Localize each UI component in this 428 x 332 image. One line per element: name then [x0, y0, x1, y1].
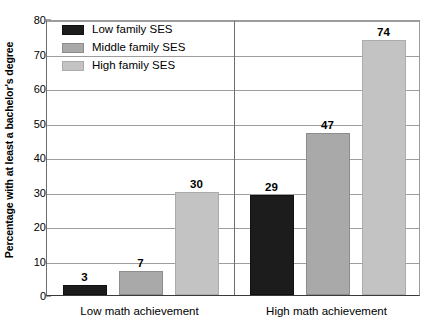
bar[interactable]	[119, 271, 163, 295]
legend-item-label: High family SES	[92, 60, 175, 72]
y-tick-label: 60	[18, 84, 46, 95]
legend-item-label: Middle family SES	[92, 42, 185, 54]
bar[interactable]	[306, 133, 350, 295]
legend-item[interactable]: Middle family SES	[62, 40, 222, 56]
legend-swatch-icon	[62, 43, 84, 53]
x-axis-category-label: High math achievement	[233, 306, 420, 318]
bar-value-label: 74	[362, 27, 406, 39]
bar-value-label: 7	[119, 258, 163, 270]
bar[interactable]	[250, 195, 294, 295]
y-tick-label: 80	[18, 15, 46, 26]
legend-swatch-icon	[62, 25, 84, 35]
bar-value-label: 3	[63, 272, 107, 284]
legend-item[interactable]: Low family SES	[62, 22, 222, 38]
legend: Low family SESMiddle family SESHigh fami…	[62, 22, 222, 76]
y-tick-label: 30	[18, 187, 46, 198]
y-axis-ticks: 80706050403020100	[12, 20, 46, 296]
bar-value-label: 29	[250, 182, 294, 194]
legend-item-label: Low family SES	[92, 24, 173, 36]
group-divider-line	[234, 21, 235, 295]
legend-swatch-icon	[62, 61, 84, 71]
bar[interactable]	[362, 40, 406, 295]
bar-chart: Percentage with at least a bachelor's de…	[0, 0, 428, 332]
bar[interactable]	[175, 192, 219, 296]
y-tick-label: 50	[18, 118, 46, 129]
x-axis-category-label: Low math achievement	[46, 306, 233, 318]
bar-value-label: 30	[175, 179, 219, 191]
y-tick-label: 0	[18, 291, 46, 302]
bar-value-label: 47	[306, 120, 350, 132]
y-tick-label: 10	[18, 256, 46, 267]
y-tick-label: 70	[18, 49, 46, 60]
bar[interactable]	[63, 285, 107, 295]
y-tick-label: 40	[18, 153, 46, 164]
y-tick-label: 20	[18, 222, 46, 233]
legend-item[interactable]: High family SES	[62, 58, 222, 74]
